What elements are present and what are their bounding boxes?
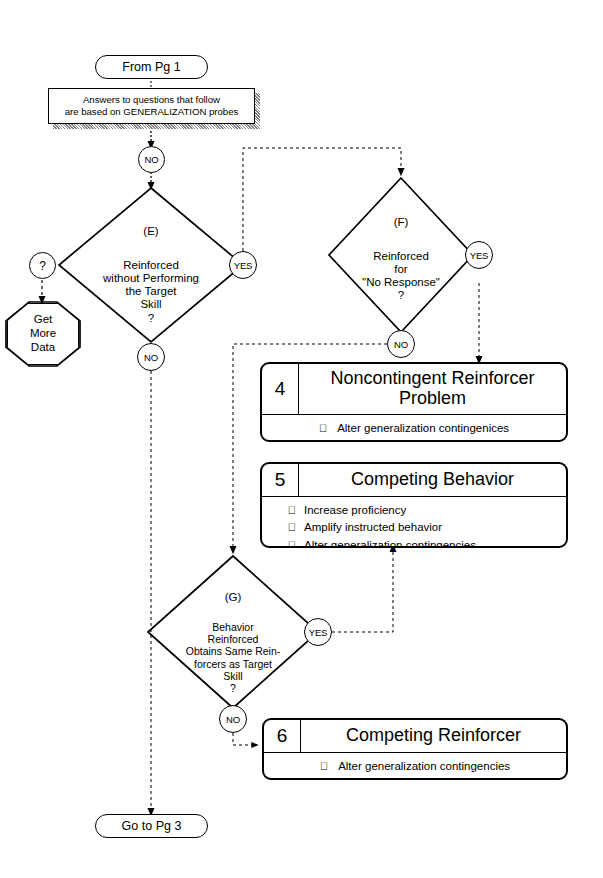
edge-g-yes-to-box5 [332,548,393,632]
connector-g-yes: YES [304,618,332,646]
decision-e-tag: (E) [61,225,241,238]
generalization-note: Answers to questions that follow are bas… [48,88,260,129]
solution-box-4-header: 4 Noncontingent Reinforcer Problem [262,364,566,415]
note-text-box: Answers to questions that follow are bas… [48,88,255,124]
connector-e-no: NO [137,343,165,371]
edge-g-no-to-box6 [233,733,255,745]
apple-bullet-icon:  [262,502,304,519]
bullet-item:  Alter generalization contingencies [262,537,566,549]
bullet-item:  Amplify instructed behavior [262,519,566,536]
bullet-item:  Increase proficiency [262,502,566,519]
connector-g-yes-label: YES [309,627,327,638]
terminator-from-page-1[interactable]: From Pg 1 [95,55,208,79]
connector-e-no-label: NO [144,352,158,363]
decision-g-question: Behavior Reinforced Obtains Same Rein- f… [149,621,317,693]
bullet-item:  Alter generalization contingencies [264,758,566,775]
decision-f-question: Reinforced for "No Response" ? [321,250,481,303]
solution-box-5[interactable]: 5 Competing Behavior  Increase proficie… [260,462,568,548]
solution-box-5-header: 5 Competing Behavior [262,464,566,497]
flowchart-page: From Pg 1 Answers to questions that foll… [0,0,603,878]
solution-box-4[interactable]: 4 Noncontingent Reinforcer Problem  Alt… [260,362,568,442]
bullet-label: Increase proficiency [304,502,566,519]
bullet-label: Alter generalization contingenices [337,420,509,437]
bullet-label: Alter generalization contingencies [338,758,510,775]
solution-box-4-body:  Alter generalization contingenices [262,415,566,442]
solution-box-4-number: 4 [262,364,299,414]
connector-f-no: NO [387,330,415,358]
connector-no-entry-label: NO [145,154,159,165]
connector-e-yes: YES [229,251,257,279]
get-more-data-label: Get More Data [30,313,56,354]
solution-box-5-number: 5 [262,464,299,496]
connector-g-no-label: NO [226,714,240,725]
solution-box-6[interactable]: 6 Competing Reinforcer  Alter generaliz… [262,718,568,780]
terminator-from-page-1-label: From Pg 1 [122,60,180,74]
decision-g-text: (G) Behavior Reinforced Obtains Same Rei… [149,579,317,706]
bullet-label: Amplify instructed behavior [304,519,566,536]
solution-box-6-number: 6 [264,720,301,752]
solution-box-5-body:  Increase proficiency  Amplify instruc… [262,497,566,548]
connector-e-unknown-label: ? [39,259,45,273]
connector-e-unknown: ? [29,252,56,279]
decision-f-text: (F) Reinforced for "No Response" ? [321,203,481,316]
solution-box-5-title: Competing Behavior [299,464,566,496]
apple-bullet-icon:  [320,758,338,775]
solution-box-6-header: 6 Competing Reinforcer [264,720,566,753]
terminator-go-to-page-3[interactable]: Go to Pg 3 [95,814,208,838]
decision-e-text: (E) Reinforced without Performing the Ta… [61,212,241,338]
terminator-go-to-page-3-label: Go to Pg 3 [122,819,182,833]
decision-f-tag: (F) [321,216,481,229]
apple-bullet-icon:  [262,537,304,549]
connector-no-entry: NO [138,146,165,173]
solution-box-6-body:  Alter generalization contingencies [264,753,566,780]
apple-bullet-icon:  [319,420,337,437]
solution-box-4-title: Noncontingent Reinforcer Problem [299,364,566,414]
connector-g-no: NO [219,705,247,733]
decision-g-tag: (G) [149,591,317,604]
apple-bullet-icon:  [262,519,304,536]
note-text: Answers to questions that follow are bas… [65,94,239,119]
decision-e-question: Reinforced without Performing the Target… [61,259,241,325]
bullet-item:  Alter generalization contingenices [262,420,566,437]
connector-e-yes-label: YES [234,260,252,271]
bullet-label: Alter generalization contingencies [304,537,566,549]
connector-f-yes: YES [465,241,493,269]
connector-f-no-label: NO [394,339,408,350]
connector-f-yes-label: YES [470,250,488,261]
solution-box-6-title: Competing Reinforcer [301,720,566,752]
